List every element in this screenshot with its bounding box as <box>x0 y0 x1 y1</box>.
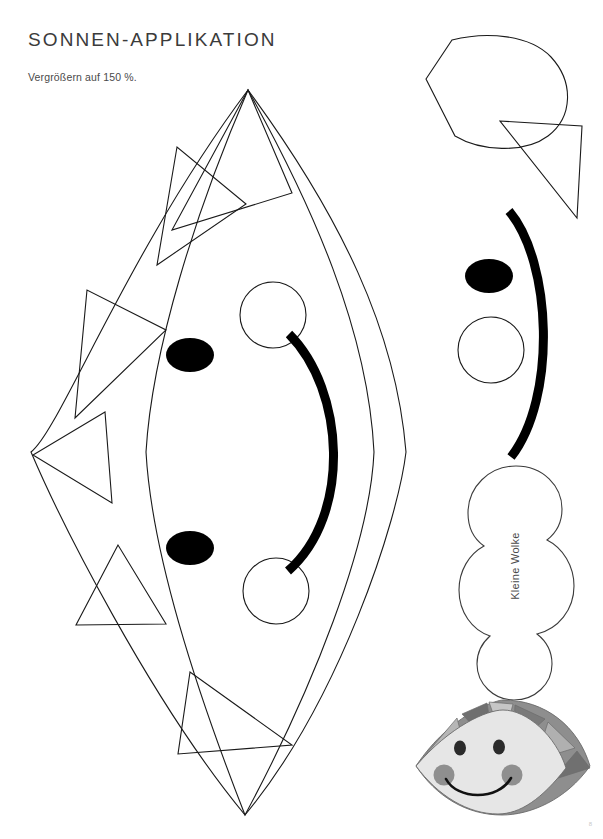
template-artboard: Kleine Wolke <box>0 0 603 839</box>
cheek-piece[interactable] <box>458 317 524 383</box>
sun-eye-lower[interactable] <box>166 531 214 565</box>
sun-inner-outline[interactable] <box>146 90 374 815</box>
sun-body-group[interactable] <box>31 90 406 815</box>
sun-outer-outline[interactable] <box>31 90 406 815</box>
sun-ray-triangle-4[interactable] <box>33 412 112 503</box>
sun-cheek-lower[interactable] <box>243 558 309 624</box>
sun-eye-upper[interactable] <box>166 338 214 372</box>
mouth-piece[interactable] <box>509 211 543 457</box>
triangle-ray-piece[interactable] <box>500 121 582 218</box>
preview-cheek-right <box>502 765 523 786</box>
eye-piece[interactable] <box>465 259 513 293</box>
sun-mouth-arc[interactable] <box>288 334 334 571</box>
cloud-label: Kleine Wolke <box>509 532 521 600</box>
sun-face-preview <box>416 700 590 815</box>
preview-cheek-left <box>434 765 455 786</box>
preview-eye-right <box>493 740 505 755</box>
page-number: 8 <box>589 821 592 827</box>
worksheet-page: SONNEN-APPLIKATION Vergrößern auf 150 %. <box>0 0 603 839</box>
preview-eye-left <box>454 741 466 756</box>
petal-ray-piece[interactable] <box>426 36 568 149</box>
sun-ray-triangle-5[interactable] <box>76 545 166 625</box>
sun-ray-triangle-6[interactable] <box>178 672 292 754</box>
